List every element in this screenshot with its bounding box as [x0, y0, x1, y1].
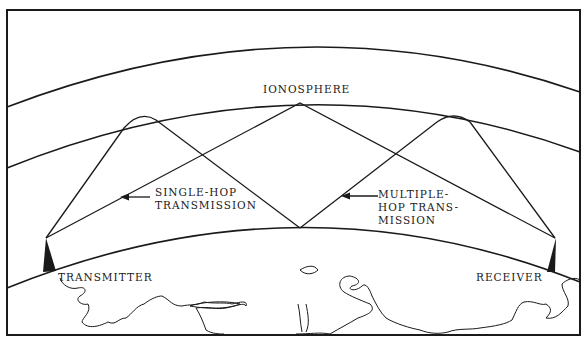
radio-propagation-diagram [0, 0, 585, 345]
label-transmitter: TRANSMITTER [58, 271, 153, 284]
transmitter-antenna-icon [43, 238, 56, 272]
multiple-hop-arrow-icon [341, 193, 378, 200]
label-multiple-hop: MULTIPLE- HOP TRANS- MISSION [378, 188, 459, 227]
receiver-antenna-icon [547, 238, 556, 272]
outer-atmosphere-arc [7, 47, 580, 107]
coastline-peninsula [298, 304, 308, 332]
coastline-outline [60, 278, 246, 334]
label-single-hop-line1: SINGLE-HOP [155, 186, 257, 199]
label-multiple-hop-line1: MULTIPLE- [378, 188, 459, 201]
single-hop-path-left [46, 116, 300, 238]
label-multiple-hop-line3: MISSION [378, 214, 459, 227]
single-hop-arrow-icon [120, 194, 150, 201]
multiple-hop-path [46, 103, 555, 238]
coastline-island [300, 266, 318, 274]
label-single-hop: SINGLE-HOP TRANSMISSION [155, 186, 257, 212]
label-ionosphere: IONOSPHERE [263, 83, 350, 96]
ionosphere-arc [7, 105, 580, 168]
label-receiver: RECEIVER [476, 271, 543, 284]
label-single-hop-line2: TRANSMISSION [155, 199, 257, 212]
label-multiple-hop-line2: HOP TRANS- [378, 201, 459, 214]
coastline-outline-right [296, 276, 580, 334]
